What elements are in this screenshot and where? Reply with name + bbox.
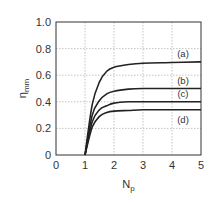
x-tick-label: 0: [53, 159, 59, 171]
y-tick-label: 0.2: [36, 122, 51, 134]
x-tick-label: 2: [111, 159, 117, 171]
curve-label: (c): [177, 88, 188, 99]
x-axis-label: Np: [122, 178, 135, 193]
y-tick-label: 0.4: [36, 96, 51, 108]
x-tick-label: 4: [169, 159, 175, 171]
y-tick-label: 0: [45, 149, 51, 161]
y-tick-label: 0.8: [36, 43, 51, 55]
x-tick-label: 5: [198, 159, 204, 171]
curve-label: (b): [177, 75, 189, 86]
x-tick-label: 3: [140, 159, 146, 171]
x-tick-label: 1: [82, 159, 88, 171]
curve-label: (a): [177, 48, 189, 59]
y-axis-label: ηmm: [16, 78, 31, 98]
efficiency-chart: 01234500.20.40.60.81.0(a)(b)(c)(d)Npηmm: [0, 0, 215, 205]
curve-label: (d): [177, 114, 189, 125]
y-tick-label: 0.6: [36, 69, 51, 81]
y-tick-label: 1.0: [36, 16, 51, 28]
